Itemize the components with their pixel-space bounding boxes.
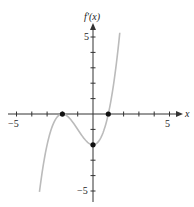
y-tick-label-pos5: 5 <box>84 31 89 42</box>
x-tick-label-pos5: 5 <box>165 118 170 129</box>
x-axis-arrow-icon <box>176 111 183 117</box>
y-axis-arrow-icon <box>90 23 96 30</box>
critical-point <box>90 142 95 147</box>
y-tick-label-neg5: −5 <box>77 185 88 196</box>
critical-point <box>60 111 65 116</box>
critical-point <box>106 111 111 116</box>
y-axis-label: f′(x) <box>84 11 101 23</box>
x-tick-label-neg5: −5 <box>8 118 19 129</box>
x-axis-label: x <box>184 108 190 119</box>
derivative-graph: f′(x) x −5 5 5 −5 <box>0 0 194 207</box>
